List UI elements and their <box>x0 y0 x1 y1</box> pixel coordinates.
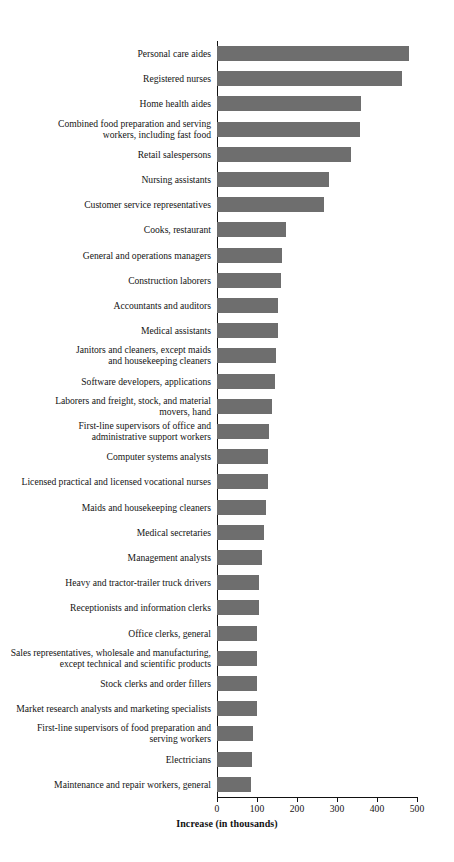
bar-category-label: First-line supervisors of office and adm… <box>6 419 211 442</box>
bar-row: Nursing assistants <box>0 167 454 193</box>
bar-row: Sales representatives, wholesale and man… <box>0 646 454 672</box>
bar-row: Retail salespersons <box>0 142 454 168</box>
bar-category-label: Maids and housekeeping cleaners <box>6 495 211 513</box>
bar-row: Heavy and tractor-trailer truck drivers <box>0 570 454 596</box>
bar-row: Accountants and auditors <box>0 293 454 319</box>
bar <box>217 71 402 86</box>
bar-row: Registered nurses <box>0 66 454 92</box>
bar-row: Maintenance and repair workers, general <box>0 772 454 798</box>
bar-row: Management analysts <box>0 545 454 571</box>
bar-row: Computer systems analysts <box>0 444 454 470</box>
bar <box>217 197 324 212</box>
bar <box>217 399 272 414</box>
bar <box>217 147 351 162</box>
bar-row: Electricians <box>0 747 454 773</box>
bar-category-label: Customer service representatives <box>6 192 211 210</box>
bar-category-label: Management analysts <box>6 545 211 563</box>
bar-category-label: Retail salespersons <box>6 142 211 160</box>
bar <box>217 222 286 237</box>
bar-category-label: Stock clerks and order fillers <box>6 671 211 689</box>
bar-category-label: Electricians <box>6 747 211 765</box>
bar <box>217 273 281 288</box>
bar <box>217 651 257 666</box>
bar-category-label: General and operations managers <box>6 243 211 261</box>
bar <box>217 525 264 540</box>
bar-chart: 0100200300400500 Increase (in thousands)… <box>0 0 454 862</box>
bar-row: Stock clerks and order fillers <box>0 671 454 697</box>
bar-category-label: Sales representatives, wholesale and man… <box>6 646 211 669</box>
bar-category-label: Personal care aides <box>6 41 211 59</box>
bar-row: Office clerks, general <box>0 621 454 647</box>
bar <box>217 248 282 263</box>
bar-row: Receptionists and information clerks <box>0 595 454 621</box>
bar-category-label: Maintenance and repair workers, general <box>6 772 211 790</box>
bar-category-label: Home health aides <box>6 91 211 109</box>
bar <box>217 449 268 464</box>
bar-row: Market research analysts and marketing s… <box>0 696 454 722</box>
bar-row: Construction laborers <box>0 268 454 294</box>
bar-category-label: Janitors and cleaners, except maids and … <box>6 343 211 366</box>
bar-row: Janitors and cleaners, except maids and … <box>0 343 454 369</box>
bar <box>217 600 259 615</box>
bar <box>217 298 278 313</box>
bar-row: Maids and housekeeping cleaners <box>0 495 454 521</box>
bar-category-label: Accountants and auditors <box>6 293 211 311</box>
bar-row: Personal care aides <box>0 41 454 67</box>
bar <box>217 424 269 439</box>
bar <box>217 752 252 767</box>
bar-row: Customer service representatives <box>0 192 454 218</box>
plot-area: 0100200300400500 Increase (in thousands)… <box>0 0 454 862</box>
bar-category-label: Licensed practical and licensed vocation… <box>6 469 211 487</box>
x-tick-label: 100 <box>237 803 277 814</box>
bar-row: First-line supervisors of food preparati… <box>0 721 454 747</box>
bar-row: Combined food preparation and serving wo… <box>0 117 454 143</box>
bar-category-label: Registered nurses <box>6 66 211 84</box>
x-axis-title: Increase (in thousands) <box>0 818 454 829</box>
bar <box>217 323 278 338</box>
bar <box>217 172 329 187</box>
bar-row: General and operations managers <box>0 243 454 269</box>
x-tick-label: 0 <box>197 803 237 814</box>
bar-category-label: Medical secretaries <box>6 520 211 538</box>
bar <box>217 122 360 137</box>
bar <box>217 96 361 111</box>
bar-category-label: Cooks, restaurant <box>6 217 211 235</box>
bar-category-label: Market research analysts and marketing s… <box>6 696 211 714</box>
bar <box>217 777 251 792</box>
bar <box>217 676 257 691</box>
bar-category-label: Medical assistants <box>6 318 211 336</box>
bar-category-label: Combined food preparation and serving wo… <box>6 117 211 140</box>
x-tick-label: 500 <box>397 803 437 814</box>
bar <box>217 500 266 515</box>
bar-category-label: Computer systems analysts <box>6 444 211 462</box>
bar-row: Medical assistants <box>0 318 454 344</box>
bar-category-label: Receptionists and information clerks <box>6 595 211 613</box>
bar <box>217 726 253 741</box>
x-tick-label: 300 <box>317 803 357 814</box>
bar-row: Licensed practical and licensed vocation… <box>0 469 454 495</box>
bar-category-label: First-line supervisors of food preparati… <box>6 721 211 744</box>
bar-category-label: Heavy and tractor-trailer truck drivers <box>6 570 211 588</box>
bar <box>217 626 257 641</box>
bar-category-label: Construction laborers <box>6 268 211 286</box>
bar-category-label: Office clerks, general <box>6 621 211 639</box>
bar-row: Laborers and freight, stock, and materia… <box>0 394 454 420</box>
bar-row: Software developers, applications <box>0 369 454 395</box>
bar-row: Cooks, restaurant <box>0 217 454 243</box>
bar <box>217 575 259 590</box>
bar-category-label: Nursing assistants <box>6 167 211 185</box>
bar <box>217 701 257 716</box>
bar-row: Home health aides <box>0 91 454 117</box>
x-tick-label: 400 <box>357 803 397 814</box>
bar <box>217 374 275 389</box>
bar-category-label: Software developers, applications <box>6 369 211 387</box>
bar <box>217 46 409 61</box>
x-tick-label: 200 <box>277 803 317 814</box>
bar <box>217 474 268 489</box>
bar-row: Medical secretaries <box>0 520 454 546</box>
bar <box>217 348 276 363</box>
bar-category-label: Laborers and freight, stock, and materia… <box>6 394 211 417</box>
bar <box>217 550 262 565</box>
bar-row: First-line supervisors of office and adm… <box>0 419 454 445</box>
